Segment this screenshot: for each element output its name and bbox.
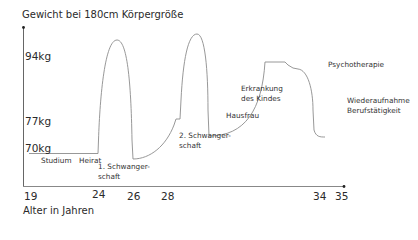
x-tick-26: 26 — [127, 190, 140, 202]
annotation-erkrankung-line2: des Kindes — [241, 95, 281, 103]
annotation-schwangerschaft-2-line2: schaft — [179, 142, 201, 150]
annotation-studium: Studium — [41, 157, 72, 165]
x-tick-35: 35 — [335, 190, 348, 202]
x-axis-arrow-icon — [343, 185, 346, 188]
y-tick-77: 77kg — [25, 115, 51, 127]
annotation-schwangerschaft-2-line1: 2. Schwanger- — [179, 132, 231, 140]
x-axis-title: Alter in Jahren — [23, 205, 94, 217]
annotation-wiederaufnahme-line1: Wiederaufnahme — [347, 97, 410, 105]
x-tick-24: 24 — [92, 188, 105, 200]
x-tick-34: 34 — [313, 190, 326, 202]
annotation-erkrankung-line1: Erkrankung — [241, 85, 283, 93]
annotation-wiederaufnahme-line2: Berufstätigkeit — [347, 107, 401, 115]
annotation-schwangerschaft-1-line2: schaft — [98, 173, 120, 181]
y-tick-94: 94kg — [25, 50, 51, 62]
annotation-psychotherapie: Psychotherapie — [328, 61, 384, 69]
annotation-schwangerschaft-1-line1: 1. Schwanger- — [98, 163, 150, 171]
annotation-hausfrau: Hausfrau — [226, 112, 259, 120]
x-tick-28: 28 — [161, 190, 174, 202]
y-tick-70: 70kg — [25, 142, 51, 154]
x-tick-19: 19 — [24, 190, 37, 202]
y-axis-arrow-icon — [22, 26, 25, 29]
